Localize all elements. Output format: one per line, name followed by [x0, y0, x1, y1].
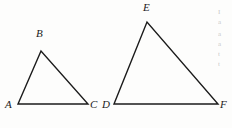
triangle-def-shape [114, 22, 218, 104]
triangle-abc-shape [18, 51, 88, 104]
vertex-label-e: E [143, 2, 150, 13]
vertex-label-c: C [90, 99, 97, 110]
margin-text-line-4: a [218, 40, 232, 50]
triangles-canvas [0, 0, 232, 128]
margin-text-line-2: a [218, 18, 232, 28]
geometry-figure: A B C D E F I a a a t t [0, 0, 232, 128]
margin-text-line-1: I [218, 8, 232, 18]
margin-text-line-5: t [218, 50, 232, 60]
vertex-label-d: D [102, 99, 110, 110]
vertex-label-f: F [220, 99, 227, 110]
vertex-label-a: A [5, 99, 12, 110]
margin-text-line-6: t [218, 60, 232, 70]
margin-text-line-3: a [218, 30, 232, 40]
vertex-label-b: B [36, 28, 43, 39]
